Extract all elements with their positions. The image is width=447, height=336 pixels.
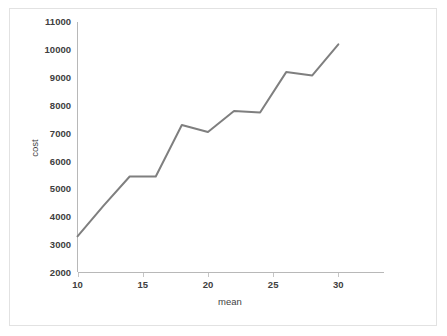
- y-axis-title: cost: [29, 139, 40, 157]
- y-tick-label: 4000: [50, 211, 71, 222]
- y-tick-label: 11000: [45, 16, 71, 27]
- y-tick-label: 10000: [45, 44, 71, 55]
- chart-figure: 2000300040005000600070008000900010000110…: [0, 0, 447, 336]
- y-axis-tick-labels: 2000300040005000600070008000900010000110…: [45, 16, 71, 278]
- y-tick-label: 5000: [50, 183, 71, 194]
- y-tick-label: 9000: [50, 72, 71, 83]
- line-chart-plot: 2000300040005000600070008000900010000110…: [0, 0, 447, 336]
- y-tick-label: 8000: [50, 100, 71, 111]
- y-tick-label: 2000: [50, 267, 71, 278]
- x-tick-label: 10: [72, 279, 83, 290]
- y-tick-label: 6000: [50, 156, 71, 167]
- x-axis-title: mean: [218, 296, 242, 307]
- y-tick-label: 3000: [50, 239, 71, 250]
- x-tick-label: 30: [333, 279, 344, 290]
- x-tick-label: 15: [137, 279, 148, 290]
- data-series-line: [78, 44, 339, 236]
- x-tick-label: 20: [203, 279, 214, 290]
- axis-tick-marks: [79, 273, 339, 277]
- y-tick-label: 7000: [50, 128, 71, 139]
- x-axis-tick-labels: 1015202530: [72, 279, 343, 290]
- x-tick-label: 25: [268, 279, 279, 290]
